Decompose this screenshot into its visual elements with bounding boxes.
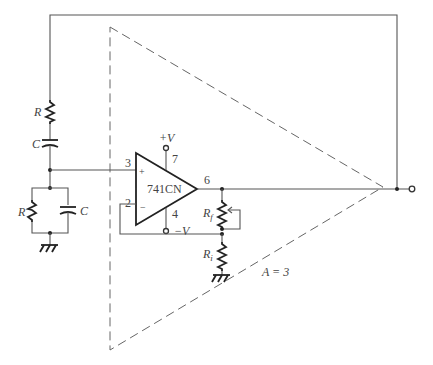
vplus-terminal	[164, 146, 169, 151]
output-terminal[interactable]	[409, 186, 415, 192]
junction-dot	[395, 187, 399, 191]
vminus-label: −V	[174, 224, 191, 238]
series-resistor-label: R	[33, 105, 42, 119]
input-resistor-label: Ri	[202, 247, 213, 263]
gain-label: A = 3	[261, 265, 289, 279]
junction-dot	[220, 227, 224, 231]
series-capacitor-label: C	[32, 137, 41, 151]
input-resistor-icon	[218, 242, 226, 271]
feedback-wire	[50, 15, 397, 188]
ground-icon	[212, 275, 230, 282]
pin-3-label: 3	[125, 156, 131, 170]
pin-7-label: 7	[172, 152, 178, 166]
shunt-resistor-icon	[28, 200, 36, 222]
wire	[32, 188, 68, 205]
vminus-terminal	[164, 229, 169, 234]
pin-6-label: 6	[204, 173, 210, 187]
pin-4-label: 4	[172, 207, 178, 221]
wire	[32, 212, 68, 233]
op-amp-part-label: 741CN	[147, 182, 182, 196]
vplus-label: +V	[159, 131, 176, 145]
feedback-resistor-label: Rf	[202, 206, 214, 222]
noninverting-sign: +	[139, 166, 145, 177]
pin-2-label: 2	[125, 196, 131, 210]
inverting-sign: −	[140, 202, 146, 213]
series-resistor-icon	[46, 100, 54, 124]
feedback-potentiometer-icon	[218, 200, 226, 229]
wien-bridge-oscillator-schematic: R C R C 741CN + − 3 2 +V 7 −V 4 6	[0, 0, 433, 365]
shunt-resistor-label: R	[17, 205, 26, 219]
ground-icon	[40, 245, 58, 252]
shunt-capacitor-label: C	[80, 204, 89, 218]
